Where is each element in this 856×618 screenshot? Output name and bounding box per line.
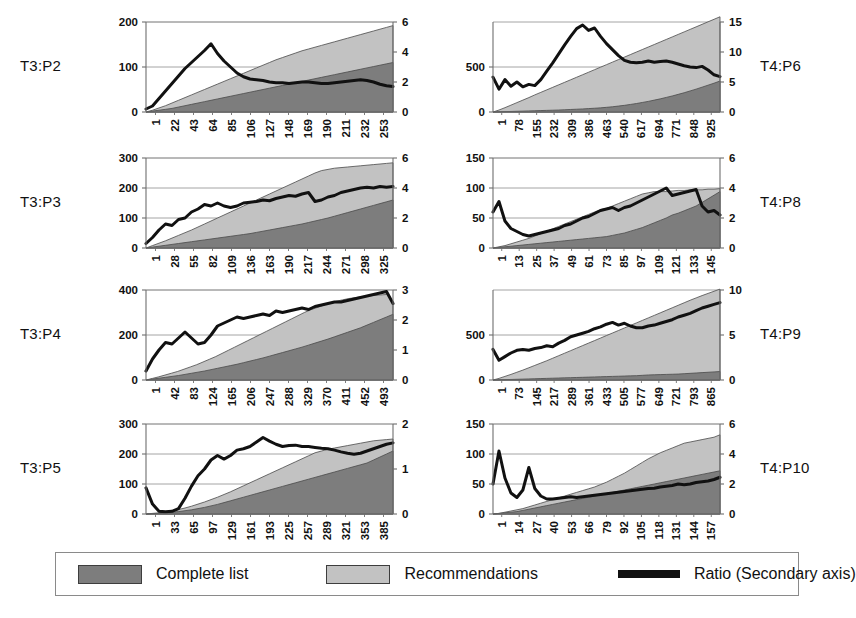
area-series (493, 289, 720, 380)
y-axis-tick-label: 100 (119, 212, 138, 224)
x-axis-tick-label: 253 (378, 119, 390, 138)
y-axis-tick-label: 0 (132, 106, 138, 118)
x-axis-tick-label: 28 (169, 254, 181, 267)
y-axis-tick-label: 150 (466, 418, 485, 430)
legend-label-ratio: Ratio (Secondary axis) (694, 565, 856, 583)
y2-axis-tick-label: 0 (729, 106, 735, 118)
x-axis-tick-label: 73 (513, 387, 525, 400)
x-axis-tick-label: 85 (226, 118, 238, 131)
y-axis-tick-label: 0 (132, 508, 138, 520)
legend-swatch-recommendations-icon (326, 565, 390, 584)
y-axis-tick-label: 50 (472, 478, 485, 490)
y2-axis-tick-label: 4 (729, 448, 736, 460)
y2-axis-tick-label: 5 (729, 329, 736, 341)
ratio-line (146, 438, 393, 512)
legend-label-complete-list: Complete list (156, 565, 248, 583)
x-axis-tick-label: 193 (264, 521, 276, 540)
y2-axis-tick-label: 4 (729, 182, 736, 194)
legend-item-complete-list: Complete list (78, 565, 248, 584)
x-axis-tick-label: 64 (207, 118, 219, 131)
panel-label-t4p9: T4:P9 (760, 325, 801, 342)
x-axis-tick-label: 232 (359, 119, 371, 138)
x-axis-tick-label: 165 (226, 386, 238, 406)
x-axis-tick-label: 206 (245, 387, 257, 406)
area-series (146, 439, 393, 514)
y-axis-tick-label: 0 (479, 374, 485, 386)
y-axis-tick-label: 500 (466, 61, 485, 73)
x-axis-tick-label: 73 (601, 255, 613, 268)
x-axis-tick-label: 694 (653, 118, 665, 138)
x-axis-tick-label: 385 (378, 520, 390, 540)
x-axis-tick-label: 1 (150, 386, 162, 393)
y-axis-tick-label: 100 (466, 448, 485, 460)
x-axis-tick-label: 78 (513, 118, 525, 131)
y-axis-tick-label: 100 (119, 478, 138, 490)
legend-item-recommendations: Recommendations (326, 565, 537, 584)
y2-axis-tick-label: 15 (729, 16, 742, 28)
y2-axis-tick-label: 2 (729, 478, 735, 490)
x-axis-tick-label: 61 (583, 254, 595, 267)
x-axis-tick-label: 288 (283, 386, 295, 406)
x-axis-tick-label: 1 (150, 254, 162, 261)
x-axis-tick-label: 13 (513, 255, 525, 268)
y2-axis-tick-label: 0 (729, 508, 735, 520)
y2-axis-tick-label: 1 (402, 344, 409, 356)
y2-axis-tick-label: 6 (402, 152, 408, 164)
panel-label-t3p5: T3:P5 (20, 459, 61, 476)
x-axis-tick-label: 22 (169, 119, 181, 132)
y-axis-tick-label: 300 (119, 418, 138, 430)
y2-axis-tick-label: 0 (729, 242, 735, 254)
x-axis-tick-label: 1 (496, 254, 508, 261)
ratio-line (146, 292, 393, 372)
ratio-line (493, 303, 720, 361)
x-axis-tick-label: 370 (321, 387, 333, 406)
y-axis-tick-label: 400 (119, 284, 138, 296)
x-axis-tick-label: 92 (618, 521, 630, 534)
x-axis-tick-label: 33 (169, 521, 181, 534)
panel-label-t3p2: T3:P2 (20, 57, 61, 74)
x-axis-tick-label: 271 (340, 254, 352, 274)
y2-axis-tick-label: 0 (402, 242, 408, 254)
x-axis-tick-label: 106 (245, 119, 257, 138)
panel-label-t3p3: T3:P3 (20, 193, 61, 210)
area-series (146, 26, 393, 112)
y2-axis-tick-label: 0 (402, 508, 408, 520)
y-axis-tick-label: 0 (479, 508, 485, 520)
x-axis-tick-label: 577 (635, 387, 647, 406)
area-series (493, 189, 720, 248)
x-axis-tick-label: 97 (635, 255, 647, 268)
ratio-line (146, 187, 393, 244)
x-axis-tick-label: 40 (548, 521, 560, 534)
x-axis-tick-label: 155 (531, 118, 543, 138)
area-series (493, 81, 720, 112)
x-axis-tick-label: 321 (340, 520, 352, 540)
x-axis-tick-label: 129 (226, 521, 238, 540)
x-axis-tick-label: 85 (618, 254, 630, 267)
x-axis-tick-label: 43 (188, 119, 200, 132)
area-series (146, 295, 393, 381)
y2-axis-tick-label: 0 (402, 374, 408, 386)
x-axis-tick-label: 1 (150, 118, 162, 125)
x-axis-tick-label: 157 (705, 521, 717, 540)
y-axis-tick-label: 200 (119, 448, 138, 460)
y2-axis-tick-label: 0 (729, 374, 735, 386)
area-series (493, 435, 720, 514)
x-axis-tick-label: 1 (496, 118, 508, 125)
x-axis-tick-label: 1 (496, 386, 508, 393)
x-axis-tick-label: 217 (548, 387, 560, 406)
x-axis-tick-label: 289 (321, 521, 333, 540)
x-axis-tick-label: 121 (670, 254, 682, 274)
area-series (146, 200, 393, 248)
y-axis-tick-label: 300 (119, 152, 138, 164)
y2-axis-tick-label: 6 (729, 152, 735, 164)
y2-axis-tick-label: 4 (402, 46, 409, 58)
x-axis-tick-label: 865 (705, 386, 717, 406)
x-axis-tick-label: 14 (513, 520, 525, 533)
y2-axis-tick-label: 2 (402, 76, 408, 88)
y2-axis-tick-label: 1 (402, 463, 409, 475)
x-axis-tick-label: 133 (688, 255, 700, 274)
legend: Complete list Recommendations Ratio (Sec… (55, 552, 799, 596)
y2-axis-tick-label: 2 (402, 314, 408, 326)
